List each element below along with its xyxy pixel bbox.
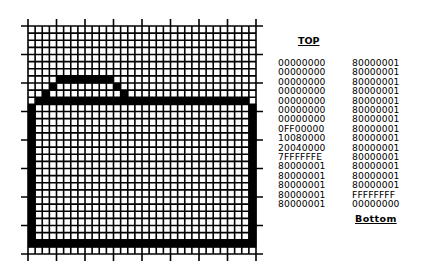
folder-icon	[0, 0, 270, 271]
hex-row: 80000001	[278, 199, 326, 208]
hex-row: 00000000	[352, 199, 400, 208]
bottom-label: Bottom	[355, 213, 397, 224]
bitmap-grid	[0, 0, 270, 271]
top-label: TOP	[298, 35, 320, 46]
hex-column-right: 80000001 80000001 80000001 80000001 8000…	[352, 58, 400, 209]
hex-column-left: 00000000 00000000 00000000 00000000 0000…	[278, 58, 326, 209]
